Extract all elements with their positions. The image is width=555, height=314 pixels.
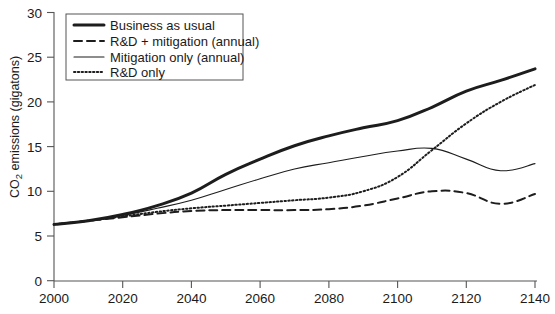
y-tick-label-20: 20 [27,95,42,110]
x-tick-label-2080: 2080 [314,291,344,306]
x-tick-label-2140: 2140 [520,291,550,306]
y-tick-label-10: 10 [27,184,42,199]
series-line-r-d-only [54,85,535,224]
series-line-r-d-mitigation-annual [54,191,535,225]
svg-text:CO2 emissions (gigatons): CO2 emissions (gigatons) [8,56,24,198]
y-tick-label-30: 30 [27,6,42,21]
x-tick-label-2120: 2120 [451,291,481,306]
y-tick-label-0: 0 [34,274,42,289]
y-tick-label-15: 15 [27,140,42,155]
y-axis-title-pre: CO [8,179,22,198]
x-axis-ticks: 2000 2020 2040 2060 2080 2100 2120 2140 [39,281,550,306]
co2-emissions-line-chart: CO2 emissions (gigatons) 30 25 20 15 10 … [0,0,555,314]
legend: Business as usual R&D + mitigation (annu… [66,14,259,80]
y-axis-ticks: 30 25 20 15 10 5 0 [27,6,54,289]
y-axis-title-post: emissions (gigatons) [8,56,22,174]
y-tick-label-5: 5 [34,229,42,244]
legend-label-mitigation-only: Mitigation only (annual) [110,50,244,65]
x-tick-label-2040: 2040 [176,291,206,306]
legend-label-business-as-usual: Business as usual [110,18,215,33]
y-axis-title: CO2 emissions (gigatons) [8,56,24,198]
chart-canvas: CO2 emissions (gigatons) 30 25 20 15 10 … [0,0,555,314]
y-tick-label-25: 25 [27,50,42,65]
legend-label-rd-plus-mitigation: R&D + mitigation (annual) [110,34,259,49]
series-layer [54,69,535,225]
series-line-business-as-usual [54,69,535,225]
x-tick-label-2020: 2020 [108,291,138,306]
legend-label-rd-only: R&D only [110,65,165,80]
x-tick-label-2100: 2100 [383,291,413,306]
x-tick-label-2060: 2060 [245,291,275,306]
x-tick-label-2000: 2000 [39,291,69,306]
